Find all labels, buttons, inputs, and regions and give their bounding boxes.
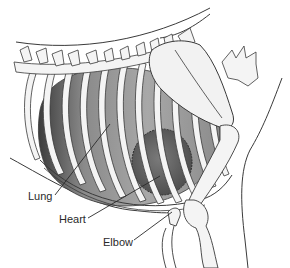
- label-lung: Lung: [28, 190, 52, 202]
- label-heart: Heart: [59, 213, 86, 225]
- elbow-leader: [134, 212, 172, 240]
- neck-vertebrae: [222, 46, 258, 86]
- thorax-illustration: [0, 0, 290, 268]
- label-elbow: Elbow: [103, 236, 133, 248]
